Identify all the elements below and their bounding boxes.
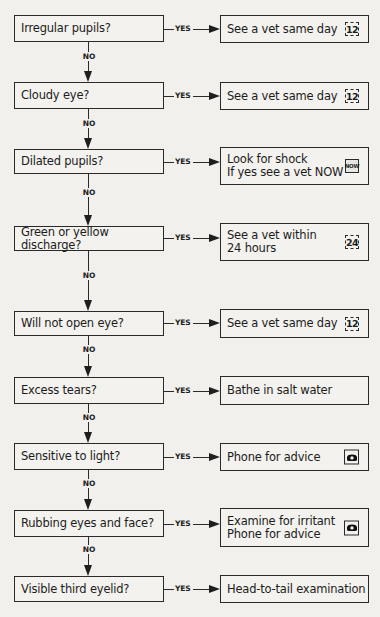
question-text: Rubbing eyes and face? [21,517,154,530]
question-box: Visible third eyelid? [14,576,164,602]
answer-box: Bathe in salt water [220,376,369,405]
yes-label: YES [175,233,190,243]
arrow-down-icon [84,300,92,311]
no-connector: NO [78,42,100,82]
question-box: Rubbing eyes and face? [14,510,164,537]
no-connector: NO [78,336,100,377]
answer-box: See a vet same day 12 [220,15,369,43]
no-connector: NO [78,251,100,311]
answer-box: See a vet within 24 hours 24 [220,223,369,261]
question-text: Will not open eye? [21,317,124,330]
arrow-right-icon [209,25,220,33]
question-text: Cloudy eye? [21,89,89,102]
yes-connector: YES [164,519,220,529]
yes-connector: YES [164,24,220,34]
arrow-right-icon [209,234,220,242]
arrow-right-icon [209,520,220,528]
arrow-down-icon [84,565,92,576]
no-label: NO [78,188,100,197]
question-box: Dilated pupils? [14,149,164,174]
question-box: Will not open eye? [14,311,164,336]
arrow-down-icon [84,432,92,443]
now-icon: NOW [345,159,359,173]
yes-label: YES [175,452,190,462]
arrow-down-icon [84,138,92,149]
no-connector: NO [78,537,100,576]
arrow-down-icon [84,71,92,82]
clock-24-icon: 24 [345,235,359,249]
yes-connector: YES [164,584,220,594]
yes-label: YES [175,318,190,328]
answer-box: See a vet same day 12 [220,82,369,110]
no-connector: NO [78,470,100,510]
no-label: NO [78,545,100,554]
yes-connector: YES [164,386,220,396]
question-box: Sensitive to light? [14,443,164,470]
yes-label: YES [175,91,190,101]
answer-box: Look for shock If yes see a vet NOW NOW [220,147,369,185]
no-label: NO [78,413,100,422]
question-text: Green or yellow discharge? [21,226,163,252]
answer-box: Examine for irritant Phone for advice [220,508,369,547]
phone-icon [344,520,359,535]
yes-label: YES [175,24,190,34]
yes-connector: YES [164,233,220,243]
phone-icon [344,450,359,465]
arrow-right-icon [209,158,220,166]
answer-box: Head-to-tail examination [220,575,369,603]
yes-connector: YES [164,91,220,101]
yes-label: YES [175,386,190,396]
no-connector: NO [78,174,100,226]
question-text: Excess tears? [21,384,97,397]
yes-connector: YES [164,318,220,328]
yes-label: YES [175,519,190,529]
no-connector: NO [78,109,100,149]
no-label: NO [78,52,100,61]
clock-12-icon: 12 [345,317,359,331]
clock-12-icon: 12 [345,89,359,103]
clock-12-icon: 12 [345,22,359,36]
no-label: NO [78,479,100,488]
no-connector: NO [78,404,100,443]
arrow-down-icon [84,366,92,377]
question-box: Cloudy eye? [14,82,164,109]
question-text: Irregular pupils? [21,22,111,35]
question-text: Sensitive to light? [21,450,120,463]
arrow-down-icon [84,499,92,510]
yes-connector: YES [164,157,220,167]
no-label: NO [78,119,100,128]
no-label: NO [78,345,100,354]
yes-label: YES [175,157,190,167]
arrow-right-icon [209,92,220,100]
arrow-right-icon [209,585,220,593]
question-text: Visible third eyelid? [21,583,129,596]
answer-text: Bathe in salt water [227,384,368,397]
question-box: Excess tears? [14,377,164,404]
answer-box: See a vet same day 12 [220,309,369,338]
yes-connector: YES [164,452,220,462]
yes-label: YES [175,584,190,594]
answer-text: Head-to-tail examination [227,583,368,596]
arrow-right-icon [209,387,220,395]
arrow-right-icon [209,319,220,327]
no-label: NO [78,271,100,280]
question-box: Green or yellow discharge? [14,226,164,251]
question-box: Irregular pupils? [14,15,164,42]
answer-box: Phone for advice [220,443,369,471]
question-text: Dilated pupils? [21,155,103,168]
arrow-right-icon [209,453,220,461]
